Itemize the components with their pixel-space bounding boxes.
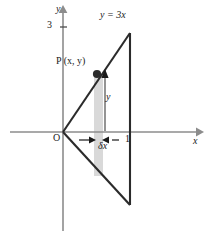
point-p-label: P (x, y): [56, 56, 85, 66]
origin-label: O: [53, 133, 60, 143]
y-axis-label: y: [56, 4, 60, 14]
x-tick-label-1: 1: [125, 134, 130, 144]
math-figure: y x 3 1 O y = 3x P (x, y) y δx: [0, 0, 211, 231]
element-strip: [94, 73, 103, 176]
width-measure-label: δx: [98, 141, 107, 151]
height-measure-label: y: [106, 92, 110, 102]
x-axis-label: x: [193, 136, 197, 146]
y-tick-label-3: 3: [47, 20, 52, 30]
point-p-marker: [93, 70, 101, 78]
line-equation-label: y = 3x: [100, 10, 126, 20]
figure-canvas: [0, 0, 211, 231]
